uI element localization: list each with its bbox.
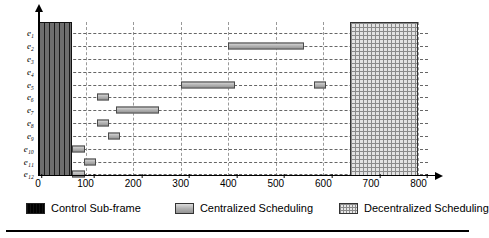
x-tick-label-700: 700 [363, 178, 380, 189]
y-axis-arrow-icon [35, 4, 43, 12]
x-tick-label-100: 100 [77, 178, 94, 189]
category-label-e2: e₂ [27, 41, 34, 51]
centralized-bar-e5 [314, 81, 326, 88]
x-tick-label-800: 800 [410, 178, 427, 189]
x-tick-label-200: 200 [125, 178, 142, 189]
plot-area: e₁e₂e₃e₄e₅e₆e₇e₈e₉e₁₀e₁₁e₁₂ 010020030040… [38, 22, 428, 176]
category-label-e11: e₁₁ [24, 157, 34, 167]
legend-label-control-subframe: Control Sub-frame [51, 202, 141, 214]
legend-label-centralized-scheduling: Centralized Scheduling [200, 202, 313, 214]
centralized-bar-e6 [97, 94, 109, 101]
x-tick-label-500: 500 [267, 178, 284, 189]
centralized-bar-e7 [116, 107, 159, 114]
centralized-bar-e9 [108, 132, 119, 139]
decentralized-swatch-icon [339, 203, 358, 214]
category-label-e7: e₇ [27, 105, 34, 115]
figure-bottom-rule [6, 230, 469, 232]
legend-item-decentralized-scheduling: Decentralized Scheduling [339, 202, 489, 214]
centralized-swatch-icon [175, 203, 194, 214]
x-tick-label-0: 0 [35, 178, 41, 189]
x-tick-label-600: 600 [315, 178, 332, 189]
chart-legend: Control Sub-frame Centralized Scheduling… [26, 198, 450, 218]
y-axis-line [38, 12, 40, 176]
centralized-bar-e2 [228, 43, 304, 50]
decentralized-scheduling-block [350, 22, 419, 176]
category-label-e3: e₃ [27, 54, 34, 64]
category-label-e10: e₁₀ [24, 144, 34, 154]
x-tick-label-300: 300 [172, 178, 189, 189]
x-tick-label-400: 400 [220, 178, 237, 189]
category-label-e12: e₁₂ [24, 169, 34, 179]
legend-item-centralized-scheduling: Centralized Scheduling [175, 202, 313, 214]
category-label-e9: e₉ [27, 131, 34, 141]
category-label-e5: e₅ [27, 80, 34, 90]
category-label-e4: e₄ [27, 67, 34, 77]
centralized-bar-e10 [72, 145, 84, 152]
centralized-bar-e8 [97, 120, 109, 127]
control-swatch-icon [26, 203, 45, 214]
centralized-bar-e5 [181, 81, 236, 88]
control-subframe-block [38, 22, 72, 176]
category-label-e6: e₆ [27, 92, 34, 102]
centralized-bar-e11 [84, 158, 96, 165]
category-label-e8: e₈ [27, 118, 34, 128]
category-label-e1: e₁ [27, 28, 34, 38]
x-axis-line [38, 175, 436, 177]
legend-item-control-subframe: Control Sub-frame [26, 202, 141, 214]
x-axis-arrow-icon [435, 172, 443, 180]
legend-label-decentralized-scheduling: Decentralized Scheduling [364, 202, 489, 214]
